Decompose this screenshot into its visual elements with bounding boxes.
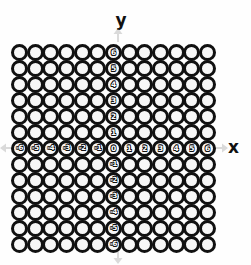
grid-circle <box>42 76 59 93</box>
grid-circle <box>27 124 44 141</box>
circle-icon <box>168 172 185 189</box>
circle-icon <box>74 44 91 61</box>
circle-icon <box>74 156 91 173</box>
grid-circle <box>89 156 106 173</box>
circle-icon <box>199 140 216 157</box>
circle-icon <box>105 204 122 221</box>
grid-circle <box>168 124 185 141</box>
grid-circle: -5 <box>27 140 44 157</box>
grid-circle <box>89 236 106 253</box>
circle-icon <box>105 60 122 77</box>
grid-circle <box>121 124 138 141</box>
circle-icon <box>11 220 28 237</box>
grid-circle <box>199 44 216 61</box>
grid-circle <box>42 124 59 141</box>
circle-icon <box>121 156 138 173</box>
grid-circle <box>199 108 216 125</box>
circle-icon <box>11 124 28 141</box>
circle-icon <box>105 140 122 157</box>
circle-icon <box>89 92 106 109</box>
grid-circle <box>58 172 75 189</box>
grid-circle <box>136 236 153 253</box>
grid-circle <box>121 236 138 253</box>
grid-circle <box>168 236 185 253</box>
circle-icon <box>168 108 185 125</box>
circle-icon <box>121 204 138 221</box>
circle-icon <box>152 236 169 253</box>
grid-circle: 0 <box>105 140 122 157</box>
circle-icon <box>152 44 169 61</box>
grid-circle: 5 <box>183 140 200 157</box>
circle-icon <box>89 60 106 77</box>
grid-circle <box>27 188 44 205</box>
grid-circle <box>121 172 138 189</box>
grid-circle: -2 <box>74 140 91 157</box>
circle-icon <box>183 76 200 93</box>
circle-icon <box>42 140 59 157</box>
grid-circle: 6 <box>199 140 216 157</box>
grid-circle: -1 <box>89 140 106 157</box>
circle-icon <box>74 60 91 77</box>
grid-circle <box>152 220 169 237</box>
circle-icon <box>152 92 169 109</box>
circle-icon <box>168 140 185 157</box>
grid-circle <box>27 156 44 173</box>
circle-icon <box>199 188 216 205</box>
circle-icon <box>136 44 153 61</box>
circle-icon <box>183 108 200 125</box>
grid-circle <box>168 204 185 221</box>
circle-icon <box>27 220 44 237</box>
circle-icon <box>136 236 153 253</box>
circle-icon <box>89 76 106 93</box>
circle-icon <box>27 172 44 189</box>
grid-circle <box>152 60 169 77</box>
circle-icon <box>105 220 122 237</box>
circle-icon <box>11 140 28 157</box>
circle-icon <box>58 172 75 189</box>
circle-icon <box>136 140 153 157</box>
circle-icon <box>11 60 28 77</box>
circle-icon <box>89 172 106 189</box>
grid-circle <box>168 92 185 109</box>
circle-icon <box>27 204 44 221</box>
grid-circle <box>183 188 200 205</box>
grid-circle <box>27 108 44 125</box>
grid-circle: 1 <box>105 124 122 141</box>
grid-circle <box>121 188 138 205</box>
grid-circle <box>58 92 75 109</box>
circle-icon <box>27 188 44 205</box>
grid-circle <box>42 44 59 61</box>
circle-icon <box>27 76 44 93</box>
grid-circle <box>168 156 185 173</box>
circle-icon <box>74 220 91 237</box>
circle-icon <box>136 188 153 205</box>
grid-circle <box>89 220 106 237</box>
circle-icon <box>11 108 28 125</box>
grid-circle <box>136 108 153 125</box>
circle-icon <box>121 92 138 109</box>
grid-circle <box>199 76 216 93</box>
grid-circle: -1 <box>105 156 122 173</box>
grid-circle <box>42 156 59 173</box>
circle-icon <box>168 220 185 237</box>
grid-circle <box>152 172 169 189</box>
circle-icon <box>199 92 216 109</box>
grid-circle <box>11 76 28 93</box>
grid-circle: 6 <box>105 44 122 61</box>
grid-circle: -2 <box>105 172 122 189</box>
grid-circle <box>89 172 106 189</box>
circle-icon <box>42 236 59 253</box>
circle-icon <box>168 188 185 205</box>
circle-icon <box>105 44 122 61</box>
grid-circle <box>183 124 200 141</box>
grid-circle: -3 <box>105 188 122 205</box>
grid-circle: -4 <box>105 204 122 221</box>
circle-icon <box>42 172 59 189</box>
grid-circle <box>89 188 106 205</box>
grid-circle <box>121 60 138 77</box>
circle-icon <box>105 108 122 125</box>
circle-icon <box>58 44 75 61</box>
grid-circle <box>136 220 153 237</box>
grid-circle <box>183 44 200 61</box>
circle-icon <box>152 108 169 125</box>
